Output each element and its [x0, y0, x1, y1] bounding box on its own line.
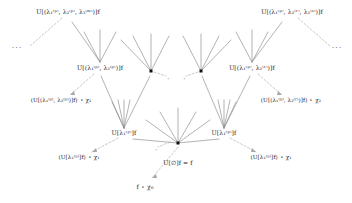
- edge-lowleft-up3: [124, 100, 130, 128]
- label-output-low-left: (U[λ₁⁽ᵖ⁾]f) ⋆ χ₁: [58, 155, 99, 161]
- label-output-mid-left: (U[(λ₁⁽ᵖ⁾, λ₂⁽ᵖ⁾)]f) ⋆ χ₂: [31, 98, 92, 104]
- inner-right-node-dot: [200, 70, 203, 73]
- edge-lowright-up2: [218, 100, 224, 128]
- label-top-left: U[(λ₁⁽ᵖ⁾, λ₂⁽ᵖ⁾, λ₃⁽ᵐ⁾)]f: [36, 9, 100, 15]
- label-root-output: f ⋆ χ₀: [137, 184, 154, 190]
- edge-lowright-midright: [224, 76, 250, 128]
- edge-lowleft-up2: [118, 100, 124, 128]
- label-low-left: U[λ₁⁽ᵖ⁾]f: [112, 130, 137, 136]
- ellipsis-left: ···: [12, 44, 23, 52]
- scattering-tree-figure: ⋆ ⋆ ⋆ U[(λ₁⁽ᵖ⁾, λ₂⁽ᵖ⁾, λ₃⁽ᵐ⁾)]f U[(λ₁⁽ᵖ⁾…: [0, 0, 352, 203]
- edge-out-innerleft: [154, 72, 166, 76]
- edge-midright-up2: [236, 32, 252, 62]
- edge-midright-topright: [252, 22, 282, 62]
- edge-root-upright2: [178, 120, 210, 143]
- edge-root-lowleft: [133, 139, 178, 143]
- edge-midleft-topleft: [72, 22, 100, 62]
- edge-midleft-up3: [100, 32, 116, 62]
- edge-innerleft-up2: [133, 36, 151, 71]
- root-node-dot: [177, 142, 180, 145]
- edge-lowleft-midleft: [101, 76, 124, 128]
- edge-root-upleft2: [146, 120, 178, 143]
- label-low-right: U[λ₁⁽ᵖ⁾]f: [212, 130, 237, 136]
- edge-root-upleft: [160, 112, 178, 143]
- edge-innerleft-up4: [121, 40, 151, 71]
- star-mark-inner-right: ⋆: [183, 76, 186, 81]
- edge-midleft-up2: [84, 32, 100, 62]
- edge-lowright-innerright: [202, 76, 224, 128]
- edge-innerleft-up3: [151, 36, 169, 71]
- edge-out-innerright: [186, 72, 198, 76]
- label-output-mid-right: (U[(λ₁⁽ᵖ⁾, λ₂⁽ʳ⁾)]f) ⋆ χ₂: [261, 98, 321, 104]
- star-mark-root: ⋆: [155, 147, 158, 152]
- edge-ellipsis-right: [298, 18, 330, 46]
- edge-out-rootdot: [158, 142, 170, 147]
- edge-midright-up3: [252, 32, 268, 62]
- ellipsis-right: ···: [332, 44, 343, 52]
- edge-ellipsis-left: [30, 18, 62, 46]
- edge-root-lowright: [178, 139, 219, 143]
- inner-left-node-dot: [150, 70, 153, 73]
- edge-root-upright: [178, 112, 196, 143]
- edge-innerright-up2: [183, 36, 201, 71]
- edge-lowright-up3: [224, 100, 230, 128]
- edge-innerright-up4: [201, 40, 231, 71]
- star-mark-inner-left: ⋆: [167, 76, 170, 81]
- label-mid-right: U[(λ₁⁽ᵖ⁾, λ₂⁽ʳ⁾)]f: [229, 65, 275, 71]
- label-output-low-right: (U[λ₁⁽ᵖ⁾]f) ⋆ χ₁: [250, 155, 291, 161]
- label-top-right: U[(λ₁⁽ᵖ⁾, λ₂⁽ʳ⁾, λ₃⁽ˢ⁾)]f: [261, 9, 323, 15]
- label-root: U[∅]f = f: [163, 160, 192, 166]
- label-mid-left: U[(λ₁⁽ᵖ⁾, λ₂⁽ᵖ⁾)]f: [77, 65, 123, 71]
- edge-innerright-up3: [201, 36, 219, 71]
